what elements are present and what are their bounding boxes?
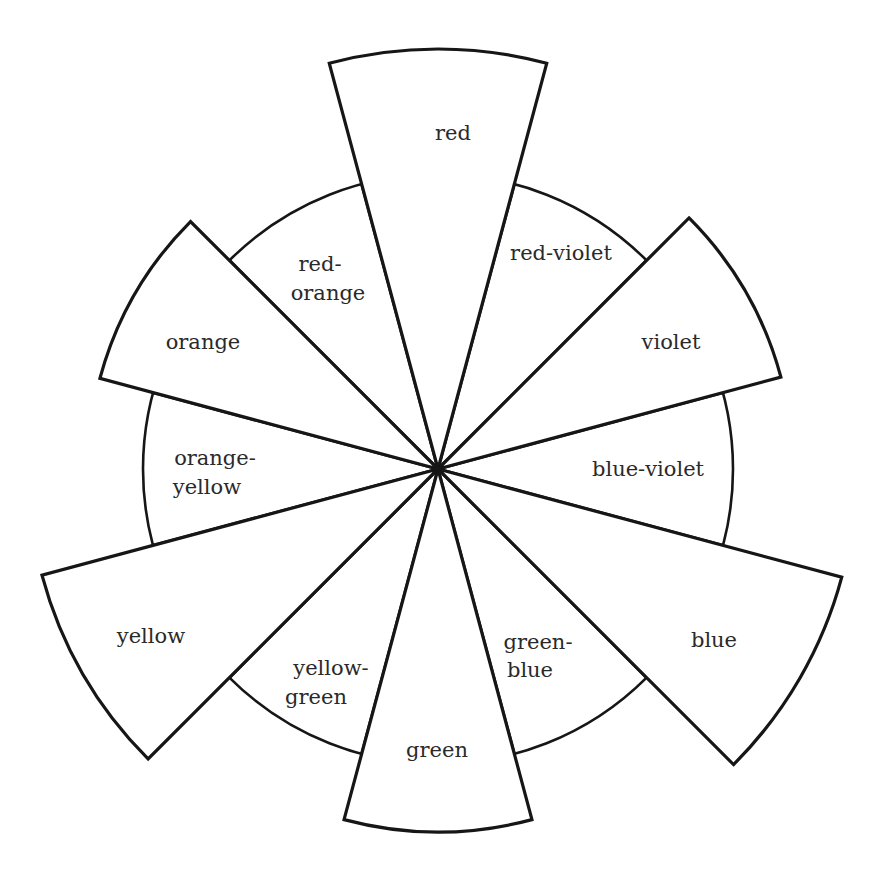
label-yellow: yellow (116, 624, 185, 648)
label-green-blue: blue (507, 658, 553, 682)
label-orange-yellow: yellow (172, 475, 241, 499)
color-wheel-diagram: redred-violetvioletblue-violetbluegreen-… (0, 0, 875, 879)
label-green-blue: green- (504, 630, 573, 654)
label-yellow-green: yellow- (292, 656, 368, 680)
label-red-orange: orange (291, 281, 366, 305)
label-blue-violet: blue-violet (592, 457, 705, 481)
label-orange-yellow: orange- (174, 446, 256, 470)
label-green: green (406, 738, 468, 762)
label-violet: violet (641, 330, 701, 354)
label-red-violet: red-violet (510, 241, 612, 265)
label-orange: orange (166, 330, 241, 354)
label-red-orange: red- (298, 252, 341, 276)
label-blue: blue (691, 628, 737, 652)
label-red: red (435, 121, 471, 145)
label-yellow-green: green (285, 685, 347, 709)
